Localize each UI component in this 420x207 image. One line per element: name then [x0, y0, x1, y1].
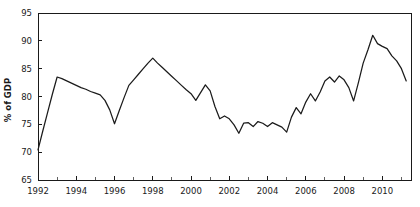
- x-tick-label: 2010: [371, 186, 393, 196]
- y-axis-title: % of GDP: [3, 78, 13, 122]
- y-tick-label: 75: [21, 119, 32, 129]
- x-tick-label: 1992: [27, 186, 49, 196]
- line-chart: 65707580859095 1992199419961998200020022…: [0, 0, 420, 207]
- x-tick-label: 2006: [295, 186, 317, 196]
- x-tick-label: 1996: [104, 186, 126, 196]
- data-series-group: [38, 35, 406, 150]
- x-tick-label: 2004: [257, 186, 279, 196]
- x-axis-ticks: [38, 176, 401, 180]
- x-tick-label: 2002: [218, 186, 240, 196]
- y-tick-label: 90: [21, 36, 32, 46]
- y-axis-tick-labels: 65707580859095: [21, 8, 32, 185]
- x-tick-label: 1994: [65, 186, 87, 196]
- data-line-debt: [38, 35, 406, 150]
- y-tick-label: 65: [21, 175, 32, 185]
- y-tick-label: 85: [21, 64, 32, 74]
- chart-container: 65707580859095 1992199419961998200020022…: [0, 0, 420, 207]
- x-axis-tick-labels: 1992199419961998200020022004200620082010: [27, 186, 393, 196]
- y-tick-label: 95: [21, 8, 32, 18]
- x-tick-label: 1998: [142, 186, 164, 196]
- y-tick-label: 80: [21, 92, 32, 102]
- x-tick-label: 2008: [333, 186, 355, 196]
- x-tick-label: 2000: [180, 186, 202, 196]
- y-axis-ticks: [38, 13, 42, 180]
- y-tick-label: 70: [21, 147, 32, 157]
